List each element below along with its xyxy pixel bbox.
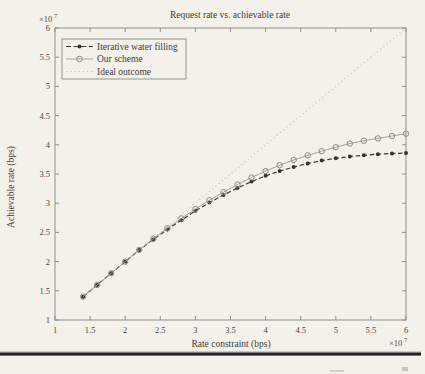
chart-title: Request rate vs. achievable rate [170, 10, 290, 20]
svg-text:2: 2 [123, 325, 127, 335]
svg-text:5: 5 [334, 325, 338, 335]
svg-text:2.5: 2.5 [155, 325, 166, 335]
svg-text:5.5: 5.5 [39, 52, 50, 62]
svg-text:5.5: 5.5 [366, 325, 377, 335]
svg-text:1: 1 [53, 325, 57, 335]
svg-text:4: 4 [46, 140, 51, 150]
svg-text:3.5: 3.5 [225, 325, 236, 335]
svg-text:4.5: 4.5 [39, 111, 50, 121]
chart: 11.522.533.544.555.5611.522.533.544.555.… [0, 0, 425, 374]
legend-label-our-scheme: Our scheme [97, 54, 143, 64]
iterative-marker-sample [78, 45, 82, 49]
svg-text:4: 4 [263, 325, 268, 335]
y-axis-multiplier-exponent: 7 [54, 12, 58, 19]
svg-text:6: 6 [404, 325, 408, 335]
svg-text:4.5: 4.5 [295, 325, 306, 335]
page-rule [0, 353, 421, 356]
svg-text:3: 3 [46, 198, 50, 208]
y-axis-multiplier: ×10 [39, 14, 52, 24]
svg-text:1.5: 1.5 [85, 325, 96, 335]
svg-text:3: 3 [193, 325, 197, 335]
y-axis-label: Achievable rate (bps) [6, 146, 17, 228]
svg-text:1.5: 1.5 [39, 286, 50, 296]
legend: Iterative water filling Our scheme Ideal… [62, 39, 186, 79]
scan-artifact [402, 367, 408, 371]
svg-text:2.5: 2.5 [39, 227, 50, 237]
scan-artifact [330, 370, 344, 372]
svg-text:3.5: 3.5 [39, 169, 50, 179]
page-rule-shadow [0, 352, 421, 353]
x-axis-multiplier-exponent: 7 [404, 336, 408, 343]
legend-label-iterative: Iterative water filling [97, 42, 178, 52]
legend-label-ideal: Ideal outcome [97, 67, 151, 77]
svg-text:1: 1 [46, 315, 50, 325]
x-axis-multiplier: ×10 [389, 338, 402, 348]
scanned-page: 11.522.533.544.555.5611.522.533.544.555.… [0, 0, 425, 374]
x-axis-label: Rate constraint (bps) [191, 339, 270, 350]
svg-text:2: 2 [46, 257, 50, 267]
svg-text:5: 5 [46, 81, 50, 91]
svg-text:6: 6 [46, 23, 50, 33]
